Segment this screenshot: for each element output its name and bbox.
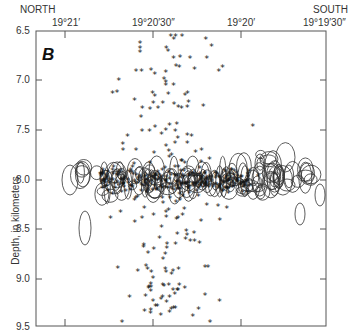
svg-text:*: *	[110, 166, 115, 176]
svg-text:*: *	[157, 171, 162, 181]
svg-text:*: *	[161, 255, 166, 265]
svg-text:*: *	[202, 180, 207, 190]
svg-text:*: *	[132, 196, 137, 206]
svg-text:*: *	[192, 65, 197, 75]
svg-text:*: *	[165, 240, 170, 250]
svg-text:*: *	[134, 146, 139, 156]
svg-text:*: *	[159, 130, 164, 140]
svg-text:*: *	[133, 218, 138, 228]
svg-text:*: *	[199, 146, 204, 156]
svg-text:*: *	[145, 265, 150, 275]
svg-text:*: *	[208, 318, 213, 328]
svg-text:*: *	[175, 230, 180, 240]
svg-text:*: *	[139, 67, 144, 77]
svg-text:*: *	[148, 159, 153, 169]
svg-text:*: *	[147, 283, 152, 293]
svg-text:*: *	[216, 202, 221, 212]
svg-text:*: *	[134, 67, 139, 77]
svg-text:*: *	[157, 234, 162, 244]
svg-text:*: *	[167, 281, 172, 291]
svg-text:*: *	[132, 96, 137, 106]
svg-text:*: *	[164, 78, 169, 88]
svg-text:*: *	[161, 199, 166, 209]
svg-text:*: *	[147, 127, 152, 137]
svg-text:*: *	[161, 99, 166, 109]
svg-text:*: *	[166, 90, 171, 100]
svg-text:*: *	[166, 184, 171, 194]
svg-text:*: *	[178, 182, 183, 192]
svg-text:*: *	[203, 291, 208, 301]
panel-label: B	[42, 45, 54, 65]
svg-text:*: *	[156, 104, 161, 114]
svg-text:*: *	[146, 249, 151, 259]
svg-text:*: *	[120, 318, 125, 328]
svg-text:*: *	[182, 159, 187, 169]
svg-text:*: *	[163, 68, 168, 78]
svg-text:*: *	[149, 173, 154, 183]
svg-text:*: *	[119, 175, 124, 185]
svg-text:*: *	[173, 240, 178, 250]
svg-text:*: *	[135, 267, 140, 277]
svg-text:*: *	[209, 42, 214, 52]
svg-text:*: *	[218, 174, 223, 184]
svg-text:*: *	[164, 44, 169, 54]
svg-text:*: *	[180, 32, 185, 42]
svg-text:*: *	[217, 297, 222, 307]
svg-text:*: *	[100, 170, 105, 180]
svg-text:*: *	[171, 81, 176, 91]
svg-text:*: *	[168, 194, 173, 204]
svg-text:*: *	[125, 132, 130, 142]
svg-text:*: *	[159, 311, 164, 321]
svg-text:*: *	[153, 302, 158, 312]
svg-text:*: *	[164, 208, 169, 218]
svg-text:*: *	[173, 290, 178, 300]
svg-text:*: *	[151, 245, 156, 255]
svg-text:*: *	[175, 120, 180, 130]
svg-text:*: *	[173, 163, 178, 173]
svg-text:*: *	[189, 132, 194, 142]
svg-text:*: *	[142, 177, 147, 187]
svg-text:*: *	[211, 181, 216, 191]
svg-text:*: *	[217, 67, 222, 77]
svg-text:*: *	[169, 305, 174, 315]
svg-text:*: *	[138, 44, 143, 54]
svg-text:*: *	[188, 54, 193, 64]
svg-text:*: *	[177, 281, 182, 291]
svg-text:*: *	[151, 211, 156, 221]
svg-text:*: *	[176, 265, 181, 275]
svg-text:*: *	[140, 127, 145, 137]
svg-text:*: *	[205, 54, 210, 64]
svg-text:*: *	[198, 182, 203, 192]
svg-text:*: *	[159, 295, 164, 305]
svg-text:*: *	[205, 201, 210, 211]
svg-text:*: *	[140, 214, 145, 224]
svg-text:*: *	[185, 231, 190, 241]
svg-text:*: *	[164, 142, 169, 152]
svg-text:*: *	[247, 167, 252, 177]
svg-text:*: *	[171, 35, 176, 45]
svg-text:*: *	[155, 186, 160, 196]
svg-text:*: *	[180, 211, 185, 221]
svg-text:*: *	[142, 204, 147, 214]
svg-text:*: *	[118, 208, 123, 218]
svg-text:*: *	[127, 293, 132, 303]
svg-text:*: *	[207, 155, 212, 165]
svg-text:*: *	[193, 148, 198, 158]
svg-text:*: *	[140, 104, 145, 114]
svg-text:*: *	[196, 305, 201, 315]
svg-text:*: *	[164, 268, 169, 278]
svg-text:*: *	[179, 104, 184, 114]
svg-text:*: *	[139, 113, 144, 123]
svg-text:*: *	[150, 89, 155, 99]
svg-text:*: *	[175, 134, 180, 144]
svg-text:*: *	[235, 172, 240, 182]
svg-text:*: *	[167, 168, 172, 178]
svg-text:*: *	[251, 122, 256, 132]
svg-text:*: *	[174, 62, 179, 72]
svg-text:*: *	[191, 312, 196, 322]
svg-text:*: *	[131, 170, 136, 180]
svg-text:*: *	[217, 216, 222, 226]
svg-text:*: *	[169, 270, 174, 280]
svg-text:*: *	[151, 274, 156, 284]
svg-text:*: *	[141, 243, 146, 253]
